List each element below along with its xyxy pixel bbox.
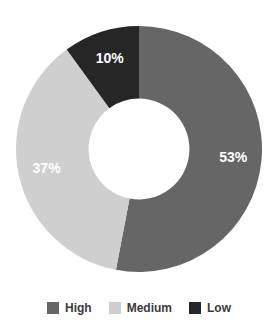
donut-plot-area: 53% 37% 10% — [0, 0, 278, 292]
donut-svg: 53% 37% 10% — [0, 0, 278, 292]
slice-label-medium: 37% — [33, 160, 62, 176]
slice-label-high: 53% — [219, 149, 248, 165]
donut-chart: 53% 37% 10% High Medium Low — [0, 0, 278, 326]
legend-label-low: Low — [207, 302, 231, 314]
legend-item-low[interactable]: Low — [189, 302, 231, 314]
legend-swatch-medium — [109, 302, 121, 314]
legend-item-medium[interactable]: Medium — [109, 302, 172, 314]
legend-label-medium: Medium — [127, 302, 172, 314]
legend-item-high[interactable]: High — [47, 302, 92, 314]
legend-label-high: High — [65, 302, 92, 314]
slice-label-low: 10% — [96, 50, 125, 66]
legend-swatch-low — [189, 302, 201, 314]
chart-legend: High Medium Low — [0, 294, 278, 322]
legend-swatch-high — [47, 302, 59, 314]
